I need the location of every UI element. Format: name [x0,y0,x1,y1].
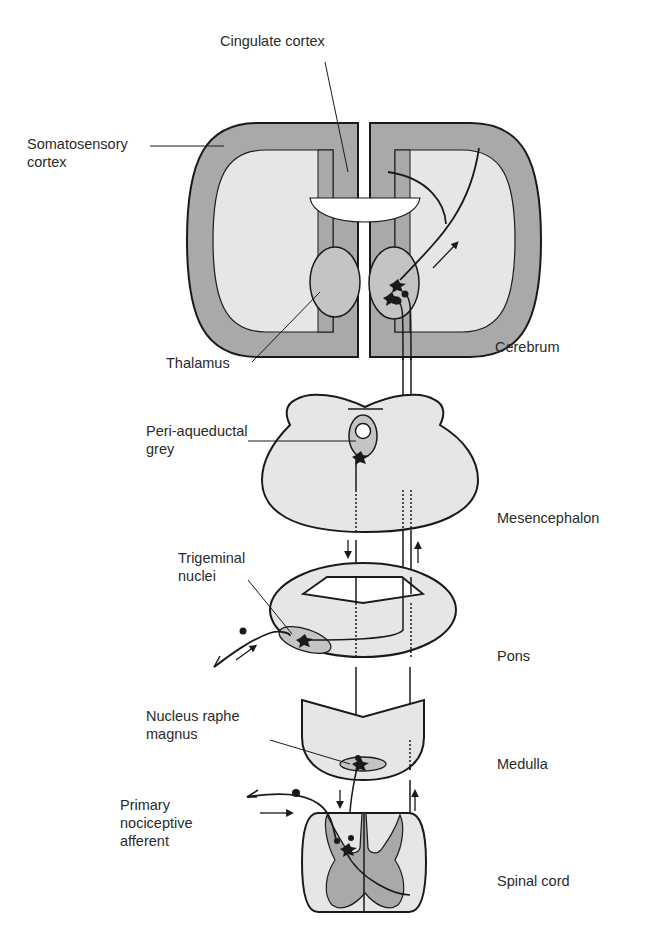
cerebral-aqueduct [356,424,371,439]
label-spinal-cord: Spinal cord [497,873,570,890]
label-afferent-l2: nociceptive [120,815,193,832]
mesencephalon [262,395,478,532]
label-pag-l1: Peri-aqueductal [146,423,248,440]
label-thalamus: Thalamus [166,355,230,372]
medulla [302,700,424,780]
pons [214,563,456,667]
label-somatosensory-cortex-l1: Somatosensory [27,136,128,153]
label-mesencephalon: Mesencephalon [497,510,599,527]
left-hemisphere-inner [213,150,333,332]
label-trigeminal-l2: nuclei [178,568,216,585]
label-trigeminal-l1: Trigeminal [178,550,245,567]
label-somatosensory-cortex-l2: cortex [27,154,67,171]
spinal-cord [247,789,426,912]
label-medulla: Medulla [497,756,548,773]
midbrain-outline [262,395,478,532]
cerebrum [187,123,541,360]
label-cerebrum: Cerebrum [495,339,559,356]
label-pag-l2: grey [146,441,174,458]
label-afferent-l3: afferent [120,833,169,850]
label-nrm-l1: Nucleus raphe [146,708,240,725]
label-afferent-l1: Primary [120,797,170,814]
label-nrm-l2: magnus [146,726,198,743]
label-pons: Pons [497,648,530,665]
left-thalamus [310,247,360,317]
label-cingulate-cortex: Cingulate cortex [220,33,325,50]
